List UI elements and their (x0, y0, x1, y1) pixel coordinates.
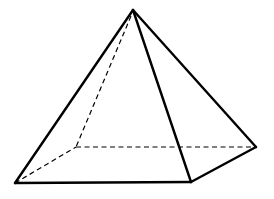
hidden-edges (15, 16, 256, 183)
edge-apex-front-right (133, 10, 191, 182)
pyramid-diagram (0, 0, 274, 199)
edge-front-right-back-right (191, 147, 256, 182)
edge-apex-back-right (133, 10, 256, 147)
edge-front-left-front-right (15, 182, 191, 183)
edge-front-left-back-left (15, 147, 76, 183)
visible-edges (15, 10, 256, 183)
edge-apex-front-left (15, 10, 133, 183)
